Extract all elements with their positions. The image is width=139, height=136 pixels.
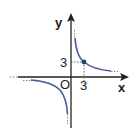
marked-point [82, 60, 87, 65]
origin-label: O [60, 77, 70, 92]
x-axis-label: x [118, 80, 126, 95]
y-tick-label: 3 [60, 55, 67, 70]
hyperbola-graph: y x O 3 3 [0, 0, 139, 136]
x-tick-label: 3 [80, 78, 87, 93]
y-axis [67, 13, 75, 128]
curve-branch-q1 [75, 30, 119, 72]
y-axis-label: y [55, 15, 63, 30]
